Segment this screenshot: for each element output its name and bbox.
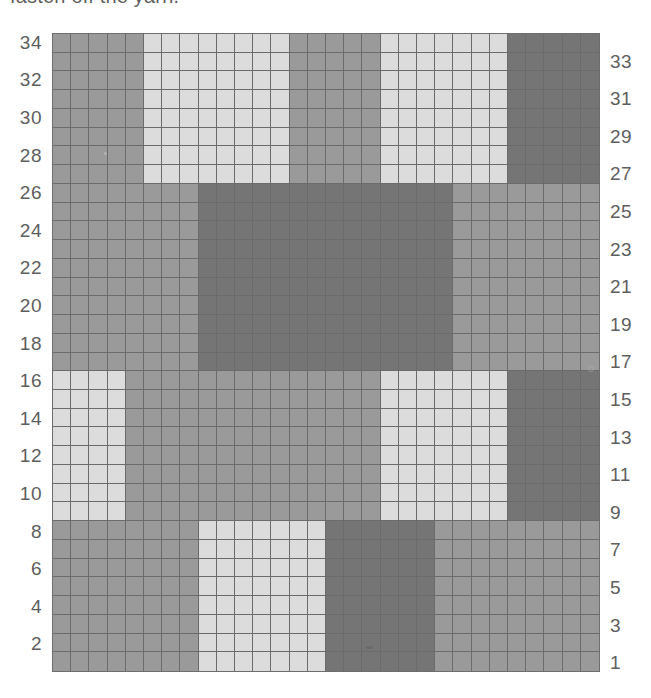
chart-cell-light-grey-yarn[interactable] — [399, 390, 417, 409]
chart-cell-medium-grey-yarn[interactable] — [362, 409, 380, 428]
chart-cell-medium-grey-yarn[interactable] — [453, 334, 471, 353]
chart-cell-medium-grey-yarn[interactable] — [308, 71, 326, 90]
chart-cell-medium-grey-yarn[interactable] — [53, 353, 71, 372]
chart-cell-medium-grey-yarn[interactable] — [508, 296, 526, 315]
chart-cell-light-grey-yarn[interactable] — [217, 559, 235, 578]
chart-cell-light-grey-yarn[interactable] — [290, 559, 308, 578]
chart-cell-dark-grey-yarn[interactable] — [544, 465, 562, 484]
chart-cell-medium-grey-yarn[interactable] — [126, 71, 144, 90]
chart-cell-dark-grey-yarn[interactable] — [217, 221, 235, 240]
chart-cell-light-grey-yarn[interactable] — [253, 165, 271, 184]
chart-cell-dark-grey-yarn[interactable] — [544, 109, 562, 128]
chart-cell-dark-grey-yarn[interactable] — [581, 371, 599, 390]
chart-cell-dark-grey-yarn[interactable] — [290, 353, 308, 372]
chart-cell-medium-grey-yarn[interactable] — [526, 259, 544, 278]
chart-cell-medium-grey-yarn[interactable] — [544, 521, 562, 540]
chart-cell-medium-grey-yarn[interactable] — [326, 502, 344, 521]
chart-cell-light-grey-yarn[interactable] — [381, 502, 399, 521]
chart-cell-medium-grey-yarn[interactable] — [108, 240, 126, 259]
chart-cell-dark-grey-yarn[interactable] — [581, 427, 599, 446]
chart-cell-light-grey-yarn[interactable] — [180, 34, 198, 53]
chart-cell-medium-grey-yarn[interactable] — [453, 540, 471, 559]
chart-cell-medium-grey-yarn[interactable] — [581, 259, 599, 278]
chart-cell-medium-grey-yarn[interactable] — [71, 278, 89, 297]
chart-cell-medium-grey-yarn[interactable] — [508, 652, 526, 671]
chart-cell-medium-grey-yarn[interactable] — [71, 203, 89, 222]
chart-cell-light-grey-yarn[interactable] — [199, 596, 217, 615]
chart-cell-medium-grey-yarn[interactable] — [544, 278, 562, 297]
chart-cell-dark-grey-yarn[interactable] — [399, 278, 417, 297]
chart-cell-light-grey-yarn[interactable] — [490, 390, 508, 409]
chart-cell-light-grey-yarn[interactable] — [271, 521, 289, 540]
chart-cell-dark-grey-yarn[interactable] — [381, 577, 399, 596]
chart-cell-medium-grey-yarn[interactable] — [253, 409, 271, 428]
chart-cell-medium-grey-yarn[interactable] — [71, 353, 89, 372]
chart-cell-medium-grey-yarn[interactable] — [453, 652, 471, 671]
chart-cell-medium-grey-yarn[interactable] — [199, 427, 217, 446]
chart-cell-dark-grey-yarn[interactable] — [399, 540, 417, 559]
chart-cell-medium-grey-yarn[interactable] — [526, 521, 544, 540]
chart-cell-medium-grey-yarn[interactable] — [453, 634, 471, 653]
chart-cell-light-grey-yarn[interactable] — [472, 90, 490, 109]
chart-cell-medium-grey-yarn[interactable] — [326, 146, 344, 165]
chart-cell-medium-grey-yarn[interactable] — [108, 315, 126, 334]
chart-cell-dark-grey-yarn[interactable] — [417, 221, 435, 240]
chart-cell-dark-grey-yarn[interactable] — [399, 221, 417, 240]
chart-cell-medium-grey-yarn[interactable] — [344, 109, 362, 128]
chart-cell-light-grey-yarn[interactable] — [435, 465, 453, 484]
chart-cell-medium-grey-yarn[interactable] — [563, 596, 581, 615]
chart-cell-medium-grey-yarn[interactable] — [53, 278, 71, 297]
chart-cell-dark-grey-yarn[interactable] — [399, 652, 417, 671]
chart-cell-dark-grey-yarn[interactable] — [217, 259, 235, 278]
chart-cell-medium-grey-yarn[interactable] — [526, 334, 544, 353]
chart-cell-light-grey-yarn[interactable] — [417, 409, 435, 428]
chart-cell-medium-grey-yarn[interactable] — [362, 390, 380, 409]
chart-cell-dark-grey-yarn[interactable] — [508, 90, 526, 109]
chart-cell-medium-grey-yarn[interactable] — [290, 371, 308, 390]
chart-cell-light-grey-yarn[interactable] — [108, 409, 126, 428]
chart-cell-medium-grey-yarn[interactable] — [71, 165, 89, 184]
chart-cell-light-grey-yarn[interactable] — [217, 165, 235, 184]
chart-cell-medium-grey-yarn[interactable] — [180, 184, 198, 203]
chart-cell-medium-grey-yarn[interactable] — [344, 371, 362, 390]
chart-cell-light-grey-yarn[interactable] — [453, 371, 471, 390]
chart-cell-light-grey-yarn[interactable] — [217, 53, 235, 72]
chart-cell-light-grey-yarn[interactable] — [199, 146, 217, 165]
chart-cell-medium-grey-yarn[interactable] — [472, 559, 490, 578]
chart-cell-dark-grey-yarn[interactable] — [435, 296, 453, 315]
chart-cell-medium-grey-yarn[interactable] — [326, 34, 344, 53]
chart-cell-light-grey-yarn[interactable] — [271, 634, 289, 653]
chart-cell-medium-grey-yarn[interactable] — [490, 203, 508, 222]
chart-cell-medium-grey-yarn[interactable] — [490, 540, 508, 559]
chart-cell-light-grey-yarn[interactable] — [144, 109, 162, 128]
chart-cell-medium-grey-yarn[interactable] — [544, 203, 562, 222]
chart-cell-light-grey-yarn[interactable] — [290, 596, 308, 615]
chart-cell-light-grey-yarn[interactable] — [453, 390, 471, 409]
chart-cell-medium-grey-yarn[interactable] — [290, 165, 308, 184]
chart-cell-dark-grey-yarn[interactable] — [508, 502, 526, 521]
chart-cell-medium-grey-yarn[interactable] — [472, 540, 490, 559]
chart-cell-dark-grey-yarn[interactable] — [508, 34, 526, 53]
chart-cell-dark-grey-yarn[interactable] — [381, 540, 399, 559]
chart-cell-medium-grey-yarn[interactable] — [217, 484, 235, 503]
chart-cell-medium-grey-yarn[interactable] — [508, 615, 526, 634]
chart-cell-medium-grey-yarn[interactable] — [144, 634, 162, 653]
chart-cell-medium-grey-yarn[interactable] — [344, 34, 362, 53]
chart-cell-dark-grey-yarn[interactable] — [508, 53, 526, 72]
chart-cell-dark-grey-yarn[interactable] — [326, 221, 344, 240]
chart-cell-light-grey-yarn[interactable] — [217, 128, 235, 147]
chart-cell-medium-grey-yarn[interactable] — [71, 184, 89, 203]
chart-cell-medium-grey-yarn[interactable] — [490, 634, 508, 653]
chart-cell-medium-grey-yarn[interactable] — [490, 221, 508, 240]
chart-cell-light-grey-yarn[interactable] — [399, 446, 417, 465]
chart-cell-medium-grey-yarn[interactable] — [144, 484, 162, 503]
chart-cell-medium-grey-yarn[interactable] — [544, 652, 562, 671]
chart-cell-light-grey-yarn[interactable] — [89, 409, 107, 428]
chart-cell-medium-grey-yarn[interactable] — [162, 615, 180, 634]
chart-cell-light-grey-yarn[interactable] — [308, 521, 326, 540]
chart-cell-dark-grey-yarn[interactable] — [399, 596, 417, 615]
chart-cell-light-grey-yarn[interactable] — [271, 652, 289, 671]
chart-cell-medium-grey-yarn[interactable] — [308, 409, 326, 428]
chart-cell-light-grey-yarn[interactable] — [235, 165, 253, 184]
chart-cell-light-grey-yarn[interactable] — [217, 577, 235, 596]
